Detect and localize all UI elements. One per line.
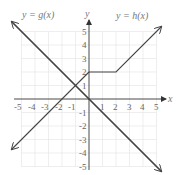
x-axis-label: x [167,93,173,104]
svg-text:-2: -2 [79,121,87,131]
chart: x y -5 -4 -3 -2 -1 1 2 3 4 5 5 4 3 2 1 -… [0,0,179,175]
svg-text:-5: -5 [79,162,87,172]
svg-text:-3: -3 [41,102,49,112]
g-label: y = g(x) [21,9,55,21]
svg-text:4: 4 [82,40,87,50]
svg-text:-3: -3 [79,135,87,145]
svg-text:5: 5 [82,27,87,37]
svg-text:-1: -1 [68,102,76,112]
svg-text:3: 3 [127,102,132,112]
x-tick-labels: -5 -4 -3 -2 -1 1 2 3 4 5 [14,102,159,112]
svg-text:3: 3 [82,54,87,64]
svg-text:-1: -1 [79,108,87,118]
svg-text:2: 2 [113,102,118,112]
h-curve-right [89,27,161,72]
h-label: y = h(x) [115,10,149,22]
svg-text:-4: -4 [79,148,87,158]
h-curve-left [12,72,89,149]
svg-text:-5: -5 [14,102,22,112]
y-axis-label: y [84,8,90,19]
svg-text:-4: -4 [28,102,36,112]
svg-text:1: 1 [82,81,87,91]
g-curve-end [12,22,161,171]
svg-text:-2: -2 [55,102,63,112]
svg-text:4: 4 [140,102,145,112]
y-tick-labels: 5 4 3 2 1 -1 -2 -3 -4 -5 [79,27,87,172]
svg-text:5: 5 [154,102,159,112]
